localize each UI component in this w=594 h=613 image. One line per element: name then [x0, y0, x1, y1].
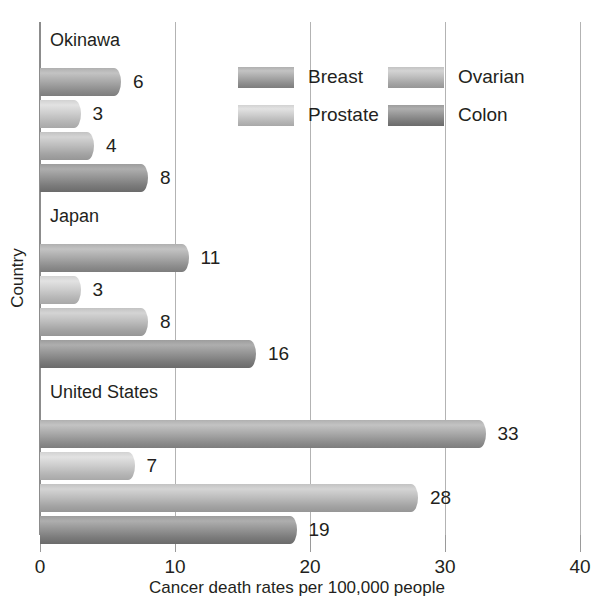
- legend-label-prostate: Prostate: [308, 104, 379, 126]
- bar-cap: [283, 516, 297, 544]
- legend-entry-breast[interactable]: Breast: [238, 66, 388, 88]
- bar[interactable]: [40, 516, 297, 544]
- bar-cap: [67, 276, 81, 304]
- bar-value-label: 19: [309, 519, 330, 541]
- bar-value-label: 11: [201, 247, 221, 269]
- bar-value-label: 8: [160, 167, 171, 189]
- x-tick-label: 20: [280, 556, 340, 578]
- x-tick-mark: [580, 535, 581, 552]
- bar-body: [40, 68, 114, 96]
- bar-cap: [80, 132, 94, 160]
- bar-chart: Country 63481138163372819 OkinawaJapanUn…: [0, 0, 594, 613]
- bar-cap: [472, 420, 486, 448]
- bar-cap: [67, 100, 81, 128]
- bar[interactable]: [40, 132, 94, 160]
- legend-entry-colon[interactable]: Colon: [388, 104, 538, 126]
- bar[interactable]: [40, 100, 81, 128]
- legend-label-ovarian: Ovarian: [458, 66, 525, 88]
- gridline: [580, 22, 581, 535]
- bar-cap: [242, 340, 256, 368]
- bar-value-label: 4: [106, 135, 117, 157]
- bar-value-label: 6: [133, 71, 144, 93]
- bar-value-label: 8: [160, 311, 171, 333]
- bar-cap: [107, 68, 121, 96]
- bar[interactable]: [40, 484, 418, 512]
- bar[interactable]: [40, 340, 256, 368]
- x-tick-label: 10: [145, 556, 205, 578]
- bar-body: [40, 516, 290, 544]
- group-label: United States: [48, 382, 160, 403]
- legend-row: Prostate Colon: [238, 96, 538, 134]
- bar-body: [40, 452, 128, 480]
- bar-cap: [134, 164, 148, 192]
- chart-legend: Breast Ovarian Prostate Colon: [238, 58, 538, 134]
- bar-value-label: 7: [147, 455, 158, 477]
- x-tick-mark: [445, 535, 446, 552]
- bar[interactable]: [40, 452, 135, 480]
- legend-swatch-prostate: [238, 105, 294, 126]
- legend-label-breast: Breast: [308, 66, 363, 88]
- y-axis-title: Country: [8, 198, 28, 358]
- bar-body: [40, 340, 249, 368]
- bar-value-label: 3: [93, 103, 104, 125]
- legend-entry-prostate[interactable]: Prostate: [238, 104, 388, 126]
- bar-body: [40, 308, 141, 336]
- legend-swatch-ovarian: [388, 67, 444, 88]
- group-label: Okinawa: [48, 30, 122, 51]
- x-axis-title: Cancer death rates per 100,000 people: [0, 578, 594, 598]
- bar-value-label: 3: [93, 279, 104, 301]
- bar[interactable]: [40, 276, 81, 304]
- bar[interactable]: [40, 68, 121, 96]
- bar-value-label: 33: [498, 423, 519, 445]
- x-tick-label: 40: [550, 556, 594, 578]
- legend-entry-ovarian[interactable]: Ovarian: [388, 66, 538, 88]
- gridline: [175, 22, 176, 535]
- legend-swatch-breast: [238, 67, 294, 88]
- x-tick-label: 0: [10, 556, 70, 578]
- bar-value-label: 28: [430, 487, 451, 509]
- legend-swatch-colon: [388, 105, 444, 126]
- bar-body: [40, 420, 479, 448]
- legend-row: Breast Ovarian: [238, 58, 538, 96]
- bar[interactable]: [40, 164, 148, 192]
- bar-value-label: 16: [268, 343, 289, 365]
- bar-body: [40, 164, 141, 192]
- x-tick-label: 30: [415, 556, 475, 578]
- legend-label-colon: Colon: [458, 104, 508, 126]
- group-label: Japan: [48, 206, 101, 227]
- bar-cap: [404, 484, 418, 512]
- bar-cap: [134, 308, 148, 336]
- bar[interactable]: [40, 244, 189, 272]
- bar-body: [40, 484, 411, 512]
- bar[interactable]: [40, 420, 486, 448]
- bar-body: [40, 244, 182, 272]
- bar-cap: [175, 244, 189, 272]
- bar-cap: [121, 452, 135, 480]
- bar[interactable]: [40, 308, 148, 336]
